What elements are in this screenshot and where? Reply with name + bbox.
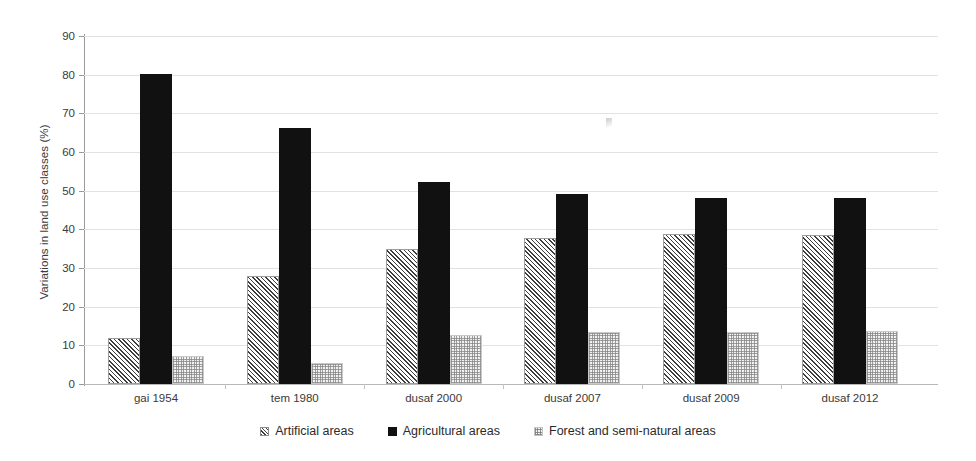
bar-forest[interactable] bbox=[866, 331, 898, 384]
bar-group bbox=[247, 36, 343, 384]
y-tick-mark-10 bbox=[79, 345, 84, 346]
bar-forest[interactable] bbox=[727, 332, 759, 384]
y-tick-mark-60 bbox=[79, 152, 84, 153]
chart-legend: Artificial areas Agricultural areas Fore… bbox=[0, 424, 976, 438]
y-tick-mark-20 bbox=[79, 307, 84, 308]
y-tick-label-10: 10 bbox=[62, 339, 75, 351]
y-tick-label-50: 50 bbox=[62, 185, 75, 197]
y-tick-mark-90 bbox=[79, 36, 84, 37]
bar-agricultural[interactable] bbox=[695, 198, 727, 384]
bar-agricultural[interactable] bbox=[556, 194, 588, 384]
y-tick-label-40: 40 bbox=[62, 223, 75, 235]
x-axis-label: tem 1980 bbox=[215, 392, 375, 404]
y-tick-label-70: 70 bbox=[62, 107, 75, 119]
y-tick-mark-30 bbox=[79, 268, 84, 269]
y-tick-label-30: 30 bbox=[62, 262, 75, 274]
bar-group bbox=[663, 36, 759, 384]
y-tick-mark-40 bbox=[79, 229, 84, 230]
y-tick-label-80: 80 bbox=[62, 69, 75, 81]
bar-group bbox=[524, 36, 620, 384]
bar-artificial[interactable] bbox=[386, 249, 418, 384]
bar-artificial[interactable] bbox=[802, 235, 834, 384]
x-axis-label: dusaf 2009 bbox=[631, 392, 791, 404]
x-axis-label: dusaf 2012 bbox=[770, 392, 930, 404]
legend-label-forest: Forest and semi-natural areas bbox=[549, 424, 716, 438]
y-tick-label-20: 20 bbox=[62, 301, 75, 313]
bar-group bbox=[802, 36, 898, 384]
bar-agricultural[interactable] bbox=[140, 74, 172, 384]
plot-area: 0102030405060708090 bbox=[84, 36, 938, 384]
legend-label-artificial: Artificial areas bbox=[275, 424, 354, 438]
x-tick-mark bbox=[503, 384, 504, 389]
y-tick-label-90: 90 bbox=[62, 30, 75, 42]
hatched-square-icon bbox=[260, 427, 269, 436]
bar-artificial[interactable] bbox=[524, 238, 556, 384]
y-tick-label-60: 60 bbox=[62, 146, 75, 158]
filled-square-icon bbox=[388, 427, 397, 436]
bar-forest[interactable] bbox=[172, 356, 204, 384]
bar-forest[interactable] bbox=[311, 363, 343, 384]
legend-item-agricultural: Agricultural areas bbox=[388, 424, 500, 438]
x-tick-mark bbox=[642, 384, 643, 389]
x-tick-mark bbox=[364, 384, 365, 389]
bar-forest[interactable] bbox=[450, 335, 482, 384]
y-tick-label-0: 0 bbox=[69, 378, 75, 390]
bar-group bbox=[108, 36, 204, 384]
y-axis-title: Variations in land use classes (%) bbox=[38, 92, 50, 332]
scan-artifact bbox=[606, 118, 612, 127]
y-tick-mark-50 bbox=[79, 191, 84, 192]
dotted-square-icon bbox=[534, 427, 543, 436]
bar-agricultural[interactable] bbox=[279, 128, 311, 384]
legend-item-forest: Forest and semi-natural areas bbox=[534, 424, 716, 438]
x-axis-label: dusaf 2007 bbox=[492, 392, 652, 404]
bar-forest[interactable] bbox=[588, 332, 620, 384]
x-tick-mark bbox=[781, 384, 782, 389]
gridline-0 bbox=[84, 384, 938, 385]
bar-group bbox=[386, 36, 482, 384]
bar-agricultural[interactable] bbox=[834, 198, 866, 384]
legend-label-agricultural: Agricultural areas bbox=[403, 424, 500, 438]
bar-chart-figure: Variations in land use classes (%) 01020… bbox=[0, 0, 976, 461]
y-tick-mark-0 bbox=[79, 384, 84, 385]
y-tick-mark-70 bbox=[79, 113, 84, 114]
x-tick-mark bbox=[225, 384, 226, 389]
bar-artificial[interactable] bbox=[108, 338, 140, 384]
y-tick-mark-80 bbox=[79, 75, 84, 76]
x-axis-label: dusaf 2000 bbox=[354, 392, 514, 404]
bar-agricultural[interactable] bbox=[418, 182, 450, 384]
bar-artificial[interactable] bbox=[247, 276, 279, 384]
x-axis-label: gai 1954 bbox=[76, 392, 236, 404]
bar-artificial[interactable] bbox=[663, 234, 695, 384]
legend-item-artificial: Artificial areas bbox=[260, 424, 354, 438]
